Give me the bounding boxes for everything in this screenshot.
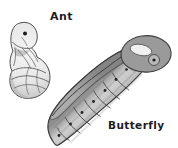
butterfly-label: Butterfly bbox=[108, 119, 164, 131]
ant-pupa-eye-dot bbox=[23, 32, 27, 36]
ant-label: Ant bbox=[50, 10, 73, 23]
chrysalis-knob-dot bbox=[152, 58, 155, 61]
ant-pupa-drawing bbox=[10, 22, 50, 98]
figure-canvas: Ant Butterfly bbox=[0, 0, 178, 148]
